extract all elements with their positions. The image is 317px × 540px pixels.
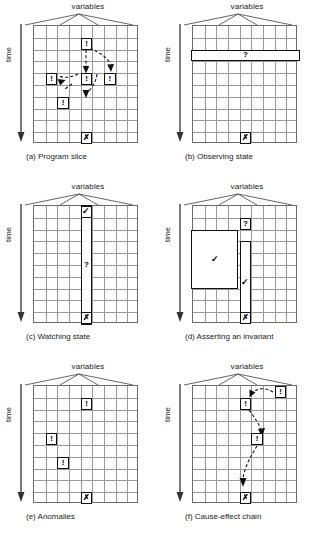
- panel-f: variables time: [159, 360, 317, 540]
- panel-e-cell-failure: ✗: [81, 492, 93, 504]
- panel-c-grid: ? ✓ ✗: [33, 205, 138, 323]
- panel-c-cell-failure: ✗: [81, 312, 93, 324]
- time-axis-arrow-icon: [13, 384, 29, 502]
- panel-c-caption: (c) Watching state: [26, 332, 158, 341]
- panel-d: variables time ✓ ✓ ? ✗ (d) Asserting an …: [159, 180, 317, 360]
- panel-f-cell-warning-3: !: [251, 433, 263, 445]
- panel-a-cell-warning-4: !: [104, 73, 116, 85]
- panel-a-cell-warning-1: !: [81, 38, 93, 50]
- time-label: time: [4, 218, 13, 252]
- panel-b-band-unknown: ?: [191, 50, 300, 62]
- time-label: time: [4, 38, 13, 72]
- panel-e-cell-warning-3: !: [57, 457, 69, 469]
- time-label: time: [163, 398, 172, 432]
- panel-a-cell-warning-2: !: [46, 73, 58, 85]
- panel-f-cell-warning-2: !: [240, 398, 252, 410]
- panel-a-caption: (a) Program slice: [26, 152, 158, 161]
- panel-e-caption: (e) Anomalies: [26, 512, 158, 521]
- panel-d-cell-unknown: ?: [240, 218, 252, 230]
- time-label: time: [4, 398, 13, 432]
- panel-f-caption: (f) Cause-effect chain: [185, 512, 317, 521]
- time-label: time: [163, 38, 172, 72]
- time-axis-arrow-icon: [13, 204, 29, 322]
- panel-c-cell-pass: ✓: [81, 206, 93, 218]
- time-label: time: [163, 218, 172, 252]
- time-axis-arrow-icon: [172, 24, 188, 142]
- panel-b: variables time ? ✗ (b) Observing state: [159, 0, 317, 180]
- panel-e-cell-warning-1: !: [81, 398, 93, 410]
- variables-label: variables: [159, 362, 317, 371]
- variables-label: variables: [0, 182, 158, 191]
- panel-a: variables time: [0, 0, 158, 180]
- time-axis-arrow-icon: [172, 384, 188, 502]
- variables-label: variables: [159, 182, 317, 191]
- variables-label: variables: [159, 2, 317, 11]
- panel-b-cell-failure: ✗: [240, 132, 252, 144]
- panel-e-grid: ! ! ! ✗: [33, 385, 138, 503]
- figure-sheet: variables time: [0, 0, 317, 540]
- panel-a-cell-failure: ✗: [81, 132, 93, 144]
- panel-a-grid: ! ! ! ! ! ✗: [33, 25, 138, 143]
- panel-e: variables time ! ! ! ✗ (e) Anomalies: [0, 360, 158, 540]
- time-axis-arrow-icon: [172, 204, 188, 322]
- panel-f-cell-failure: ✗: [240, 492, 252, 504]
- panel-d-cell-failure: ✗: [240, 312, 252, 324]
- panel-e-cell-warning-2: !: [46, 433, 58, 445]
- panel-f-cell-warning-1: !: [275, 386, 287, 398]
- variables-label: variables: [0, 2, 158, 11]
- panel-b-caption: (b) Observing state: [185, 152, 317, 161]
- panel-c-band-unknown: ?: [81, 205, 93, 325]
- panel-d-block-pass-1: ✓: [191, 230, 238, 289]
- panel-c: variables time ? ✓ ✗ (c) Watching state: [0, 180, 158, 360]
- panel-b-grid: ? ✗: [192, 25, 297, 143]
- panel-d-grid: ✓ ✓ ? ✗: [192, 205, 297, 323]
- panel-f-grid: ! ! ! ✗: [192, 385, 297, 503]
- variables-label: variables: [0, 362, 158, 371]
- panel-d-caption: (d) Asserting an invariant: [185, 332, 317, 341]
- panel-a-cell-warning-3: !: [81, 73, 93, 85]
- panel-a-cell-warning-5: !: [57, 97, 69, 109]
- time-axis-arrow-icon: [13, 24, 29, 142]
